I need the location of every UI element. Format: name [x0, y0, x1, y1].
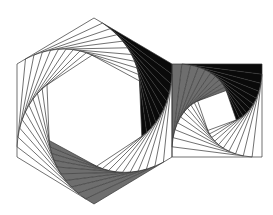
whirl-diagram — [0, 0, 273, 215]
shaded-pursuit-regions — [49, 18, 262, 204]
